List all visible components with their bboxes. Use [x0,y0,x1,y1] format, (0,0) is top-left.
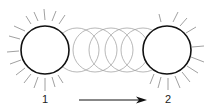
end-circle [143,26,191,74]
end-label: 2 [165,93,171,105]
motion-diagram [0,0,218,110]
start-circle [21,26,69,74]
direction-arrow [79,97,147,104]
start-label: 1 [42,93,48,105]
